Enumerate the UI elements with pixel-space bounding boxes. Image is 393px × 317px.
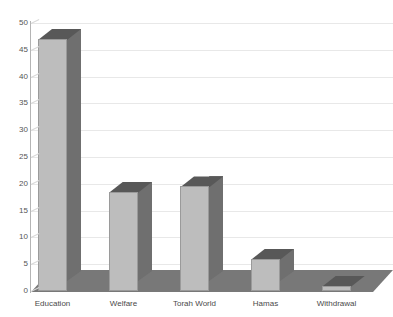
bar-front-face — [38, 39, 67, 291]
bar-hamas — [251, 259, 280, 291]
bar-side-face — [209, 176, 223, 281]
bar-side-face — [67, 29, 81, 281]
x-axis-label-hamas: Hamas — [235, 299, 296, 309]
bar-chart: 05101520253035404550 EducationWelfareTor… — [0, 0, 393, 317]
bar-torah-world — [180, 186, 209, 291]
bar-withdrawal — [322, 286, 351, 291]
bar-side-face — [138, 182, 152, 281]
x-axis-label-torah-world: Torah World — [164, 299, 225, 309]
bar-series — [0, 0, 393, 317]
x-axis-label-withdrawal: Withdrawal — [306, 299, 367, 309]
bar-front-face — [322, 286, 351, 291]
bar-front-face — [180, 186, 209, 291]
bar-education — [38, 39, 67, 291]
x-axis-label-welfare: Welfare — [93, 299, 154, 309]
x-axis-category-labels: EducationWelfareTorah WorldHamasWithdraw… — [0, 299, 393, 313]
bar-front-face — [251, 259, 280, 291]
bar-front-face — [109, 192, 138, 291]
bar-welfare — [109, 192, 138, 291]
x-axis-label-education: Education — [22, 299, 83, 309]
